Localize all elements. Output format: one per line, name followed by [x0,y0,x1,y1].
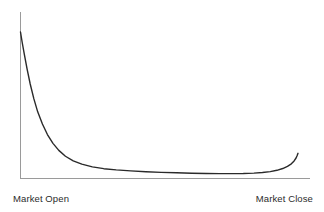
chart-plot-area [0,0,324,212]
x-axis-label-market-close: Market Close [256,193,313,205]
volume-curve-line [21,32,299,174]
x-axis-label-market-open: Market Open [13,193,69,205]
intraday-volume-chart: Market Open Market Close [0,0,324,212]
